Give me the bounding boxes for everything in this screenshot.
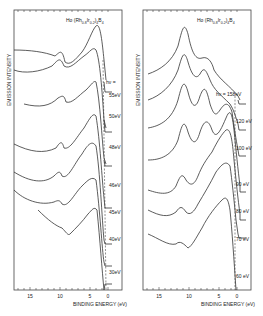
right-tick-5: 5 <box>218 293 221 299</box>
figure: EMISSION INTENSITY Ho (Rh0.8Ir0.2)4B4 hν… <box>0 0 263 316</box>
right-curve-60 <box>148 198 236 290</box>
left-label-50ev: 50eV <box>109 113 121 119</box>
right-curve-80 <box>148 130 240 214</box>
left-label-46ev: 46eV <box>109 182 121 188</box>
left-curve-48 <box>14 115 104 198</box>
right-label-80ev: 80 eV <box>236 208 250 214</box>
right-label-60ev: 60 eV <box>236 273 250 279</box>
left-label-55ev: 55eV <box>109 92 121 98</box>
right-tick-0: 0 <box>236 293 239 299</box>
right-ylabel: EMISSION INTENSITY <box>135 53 141 106</box>
right-title: Ho (Rh0.8Ir0.2)4B4 <box>197 17 235 25</box>
left-label-48ev: 48eV <box>109 144 121 150</box>
right-tick-10: 10 <box>186 293 192 299</box>
left-label-45ev: 45eV <box>109 209 121 215</box>
right-tick-15: 15 <box>156 293 162 299</box>
left-curve-50 <box>24 81 106 164</box>
left-tick-0: 0 <box>107 293 110 299</box>
left-tick-5: 5 <box>89 293 92 299</box>
right-curve-158 <box>148 27 240 100</box>
left-ylabel: EMISSION INTENSITY <box>6 53 12 106</box>
left-label-30ev: 30eV <box>109 269 121 275</box>
right-label-70ev: 70 eV <box>236 236 250 242</box>
right-xlabel: BINDING ENERGY (eV) <box>201 301 255 307</box>
left-tick-10: 10 <box>57 293 63 299</box>
left-label-40ev: 40eV <box>109 236 121 242</box>
right-label-120ev: 120 eV <box>236 118 253 124</box>
right-curve-120 <box>148 55 238 124</box>
right-label-100ev: 100 eV <box>236 145 253 151</box>
right-curve-90 <box>148 113 240 186</box>
left-hv-label: hν = <box>106 79 116 85</box>
left-panel: EMISSION INTENSITY Ho (Rh0.8Ir0.2)4B4 hν… <box>6 10 127 307</box>
left-bottom-ticks <box>18 287 108 290</box>
right-label-158ev: hν = 158eV <box>216 91 242 97</box>
right-bottom-ticks <box>147 287 237 290</box>
left-curve-40 <box>38 208 104 290</box>
left-curve-46 <box>14 143 104 240</box>
right-panel: EMISSION INTENSITY Ho (Rh0.8Ir0.2)4B4 hν… <box>135 10 255 307</box>
right-label-90ev: 90 eV <box>236 181 250 187</box>
left-tick-15: 15 <box>27 293 33 299</box>
left-curve-45 <box>14 178 104 262</box>
left-xlabel: BINDING ENERGY (eV) <box>73 301 127 307</box>
left-title: Ho (Rh0.8Ir0.2)4B4 <box>66 17 104 25</box>
